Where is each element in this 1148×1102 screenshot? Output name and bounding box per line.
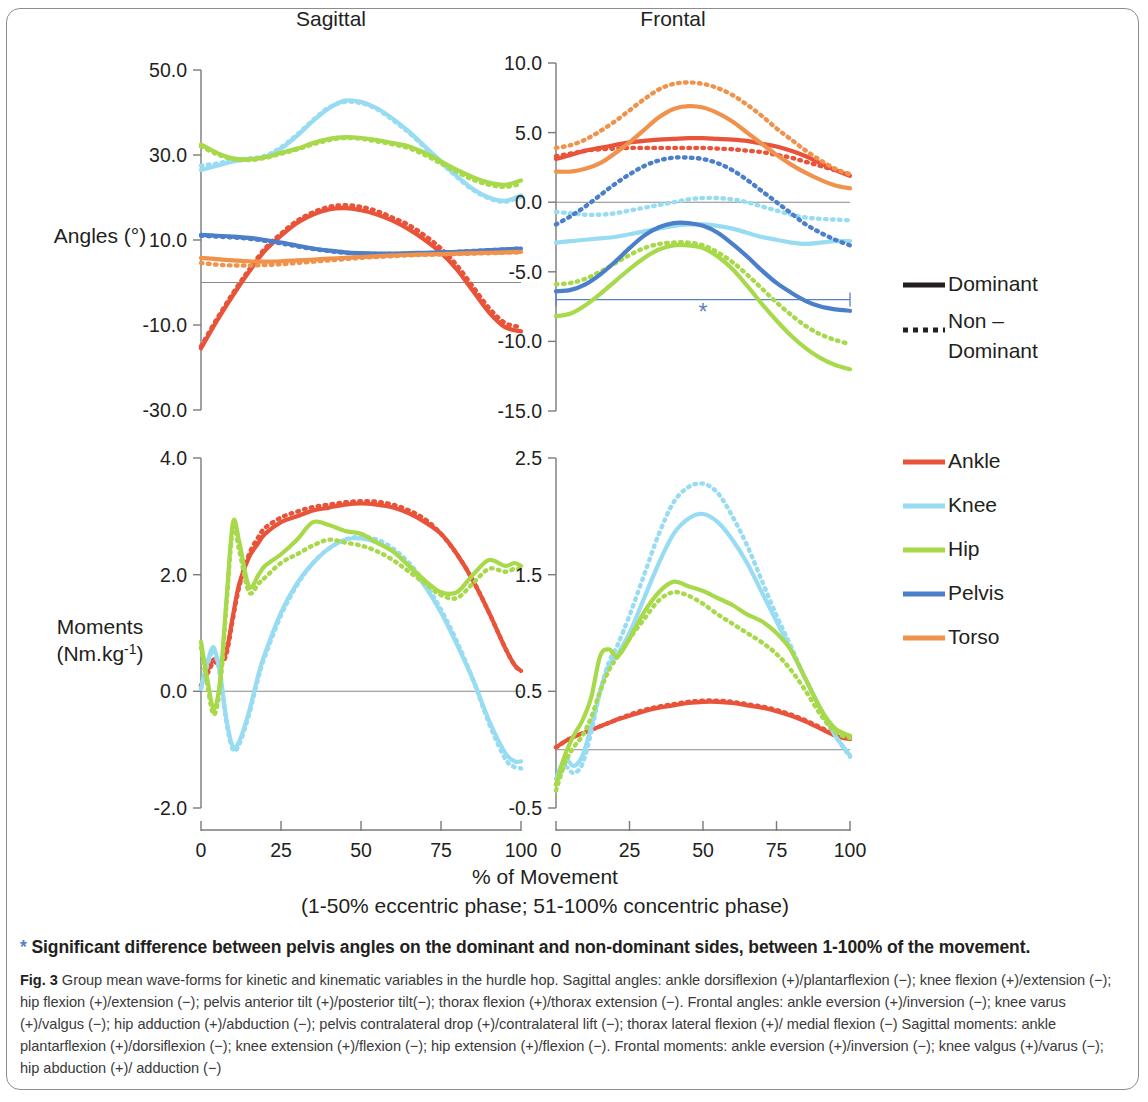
y-tick-label-frontal-angles-2: 0.0 xyxy=(515,191,542,213)
multi-panel-chart: Sagittal50.030.010.0-10.0-30.0Frontal10.… xyxy=(0,0,1148,930)
footnote-block: * Significant difference between pelvis … xyxy=(20,936,1126,1079)
x-tick-label-frontal-moments-4: 100 xyxy=(834,839,867,861)
y-tick-label-sagittal-angles-1: 30.0 xyxy=(149,144,187,166)
x-tick-label-sagittal-moments-4: 100 xyxy=(505,839,538,861)
panel-frontal-angles: Frontal10.05.00.0-5.0-10.0-15.0* xyxy=(498,7,850,422)
significance-footnote: * Significant difference between pelvis … xyxy=(20,936,1126,960)
y-tick-label-frontal-moments-2: 0.5 xyxy=(515,680,542,702)
y-tick-label-sagittal-angles-3: -10.0 xyxy=(143,314,188,336)
y-tick-label-sagittal-angles-4: -30.0 xyxy=(143,399,188,421)
y-tick-label-frontal-angles-0: 10.0 xyxy=(504,52,542,74)
series-sagittal-angles-ankle-nondominant xyxy=(201,205,521,346)
panel-title-frontal-angles: Frontal xyxy=(640,7,705,30)
series-frontal-moments-knee-dominant xyxy=(556,514,850,779)
y-tick-label-frontal-angles-3: -5.0 xyxy=(508,261,542,283)
legend-label-dominant: Dominant xyxy=(948,272,1038,295)
legend-label-knee: Knee xyxy=(948,493,997,516)
panel-frontal-moments: 2.51.50.5-0.50255075100 xyxy=(508,447,866,861)
chart-plot-area: Sagittal50.030.010.0-10.0-30.0Frontal10.… xyxy=(0,0,1148,930)
chart-legend: DominantNon –DominantAnkleKneeHipPelvisT… xyxy=(903,272,1038,648)
angles-axis-label: Angles (°) xyxy=(54,224,146,247)
series-frontal-angles-ankle-dominant xyxy=(556,138,850,176)
y-tick-label-sagittal-moments-3: -2.0 xyxy=(153,797,187,819)
y-tick-label-frontal-angles-1: 5.0 xyxy=(515,122,542,144)
figure-root: Sagittal50.030.010.0-10.0-30.0Frontal10.… xyxy=(0,0,1148,1102)
series-frontal-moments-knee-nondominant xyxy=(556,483,850,784)
x-tick-label-frontal-moments-2: 50 xyxy=(692,839,714,861)
x-tick-label-sagittal-moments-1: 25 xyxy=(270,839,292,861)
series-frontal-angles-pelvis-nondominant xyxy=(556,157,850,245)
series-frontal-angles-knee-nondominant xyxy=(556,198,850,220)
significance-star-icon: * xyxy=(20,937,27,957)
y-tick-label-frontal-moments-0: 2.5 xyxy=(515,447,542,469)
x-tick-label-frontal-moments-0: 0 xyxy=(551,839,562,861)
series-sagittal-moments-knee-nondominant xyxy=(201,537,521,769)
legend-label-ankle: Ankle xyxy=(948,449,1001,472)
series-sagittal-angles-knee-dominant xyxy=(201,100,521,201)
y-tick-label-sagittal-moments-2: 0.0 xyxy=(160,680,187,702)
legend-label-hip: Hip xyxy=(948,537,980,560)
y-tick-label-frontal-angles-5: -15.0 xyxy=(498,400,543,422)
significance-asterisk: * xyxy=(699,299,708,325)
x-tick-label-sagittal-moments-2: 50 xyxy=(350,839,372,861)
legend-label-torso: Torso xyxy=(948,625,999,648)
y-tick-label-frontal-moments-3: -0.5 xyxy=(508,797,542,819)
x-axis-title: % of Movement xyxy=(472,865,618,888)
panel-title-sagittal-angles: Sagittal xyxy=(296,7,366,30)
y-tick-label-sagittal-moments-0: 4.0 xyxy=(160,447,187,469)
figure-number-label: Fig. 3 xyxy=(20,972,58,988)
series-sagittal-angles-hip-nondominant xyxy=(201,138,521,187)
legend-label-nondominant-line1: Non – xyxy=(948,309,1004,332)
panel-sagittal-angles: Sagittal50.030.010.0-10.0-30.0 xyxy=(143,7,521,421)
y-tick-label-frontal-angles-4: -10.0 xyxy=(498,330,543,352)
x-axis-subtitle: (1-50% eccentric phase; 51-100% concentr… xyxy=(301,894,789,917)
y-tick-label-frontal-moments-1: 1.5 xyxy=(515,564,542,586)
row-axis-labels: Angles (°)Moments(Nm.kg-1) xyxy=(54,224,146,665)
x-tick-label-frontal-moments-1: 25 xyxy=(619,839,641,861)
moments-unit-close: ) xyxy=(137,642,144,665)
moments-unit-exponent: -1 xyxy=(124,641,137,657)
y-tick-label-sagittal-angles-2: 10.0 xyxy=(149,229,187,251)
panel-sagittal-moments: 4.02.00.0-2.00255075100 xyxy=(153,447,537,861)
series-frontal-angles-pelvis-dominant xyxy=(556,223,850,311)
x-tick-label-sagittal-moments-0: 0 xyxy=(196,839,207,861)
moments-axis-label-line2: (Nm.kg-1) xyxy=(56,641,143,665)
x-axis-caption-block: % of Movement(1-50% eccentric phase; 51-… xyxy=(301,865,789,917)
legend-label-pelvis: Pelvis xyxy=(948,581,1004,604)
x-tick-label-frontal-moments-3: 75 xyxy=(766,839,788,861)
figure-caption: Fig. 3 Group mean wave-forms for kinetic… xyxy=(20,969,1126,1080)
legend-label-nondominant-line2: Dominant xyxy=(948,339,1038,362)
y-tick-label-sagittal-moments-1: 2.0 xyxy=(160,564,187,586)
x-tick-label-sagittal-moments-3: 75 xyxy=(430,839,452,861)
significance-footnote-text: Significant difference between pelvis an… xyxy=(31,937,1030,957)
figure-caption-text: Group mean wave-forms for kinetic and ki… xyxy=(20,972,1111,1077)
y-tick-label-sagittal-angles-0: 50.0 xyxy=(149,59,187,81)
moments-axis-label-line1: Moments xyxy=(57,615,143,638)
series-sagittal-angles-ankle-dominant xyxy=(201,208,521,348)
